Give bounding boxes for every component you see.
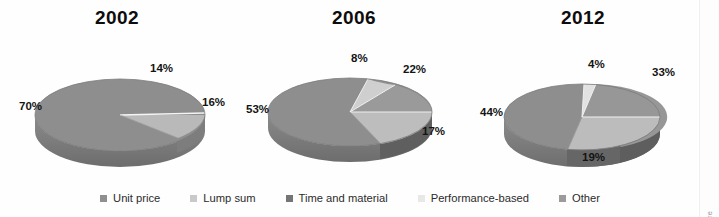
chart-legend: Unit price Lump sum Time and material Pe… bbox=[0, 186, 700, 210]
pct-label-2012-lump-sum: 33% bbox=[652, 66, 675, 78]
pie-svg-2006 bbox=[240, 0, 476, 180]
pct-label-2012-unit-price: 44% bbox=[480, 106, 503, 118]
pct-label-2002-lump-sum: 16% bbox=[202, 96, 225, 108]
pie-svg-2002 bbox=[2, 0, 238, 180]
pct-label-2006-lump-sum: 22% bbox=[403, 63, 426, 75]
pct-label-2012-time-and-material: 19% bbox=[582, 151, 605, 163]
pct-label-2006-unit-price: 53% bbox=[246, 103, 269, 115]
pie-graphic-2006 bbox=[240, 0, 476, 180]
credit-text: International Society of Arboriculture bbox=[705, 211, 714, 217]
legend-label: Performance-based bbox=[431, 192, 529, 204]
pct-label-2002-time-and-material: 14% bbox=[150, 62, 173, 74]
pct-label-2006-time-and-material: 17% bbox=[422, 125, 445, 137]
pct-label-2012-performance-based: 4% bbox=[588, 58, 605, 70]
legend-swatch-icon bbox=[418, 195, 425, 202]
legend-swatch-icon bbox=[100, 195, 107, 202]
legend-swatch-icon bbox=[190, 195, 197, 202]
legend-item-time-and-material: Time and material bbox=[286, 192, 388, 204]
legend-item-unit-price: Unit price bbox=[100, 192, 160, 204]
legend-item-lump-sum: Lump sum bbox=[190, 192, 255, 204]
pie-chart-figure: 2002 bbox=[0, 0, 719, 217]
pie-graphic-2002 bbox=[2, 0, 238, 180]
pie-panel-2012: 2012 bbox=[472, 0, 700, 180]
legend-swatch-icon bbox=[286, 195, 293, 202]
legend-label: Time and material bbox=[299, 192, 388, 204]
pie-panel-2006: 2006 bbox=[240, 0, 476, 180]
credit-strip: International Society of Arboriculture bbox=[699, 0, 719, 217]
legend-label: Lump sum bbox=[203, 192, 255, 204]
pct-label-2006-performance-based: 8% bbox=[351, 52, 368, 64]
legend-item-performance-based: Performance-based bbox=[418, 192, 529, 204]
legend-label: Other bbox=[572, 192, 600, 204]
legend-swatch-icon bbox=[559, 195, 566, 202]
legend-label: Unit price bbox=[113, 192, 160, 204]
legend-item-other: Other bbox=[559, 192, 600, 204]
pct-label-2002-unit-price: 70% bbox=[19, 100, 42, 112]
pie-panel-2002: 2002 bbox=[2, 0, 238, 180]
